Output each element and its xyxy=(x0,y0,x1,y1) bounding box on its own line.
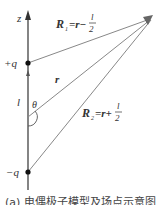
svg-text:l: l xyxy=(117,101,120,111)
vector-r xyxy=(28,20,150,117)
axis-label-z: z xyxy=(16,12,22,24)
svg-text:R: R xyxy=(81,106,90,120)
figure-caption: (a) 电偶极子模型及场点示意图 xyxy=(0,193,161,205)
svg-text:R: R xyxy=(55,17,64,31)
label-positive-charge: +q xyxy=(4,57,17,69)
charge-positive xyxy=(25,60,30,65)
label-r: r xyxy=(55,73,60,85)
svg-text:=r+: =r+ xyxy=(95,107,112,119)
z-axis-arrow-icon xyxy=(25,10,31,20)
charge-negative xyxy=(25,169,30,174)
label-separation: l xyxy=(17,96,20,108)
svg-text:2: 2 xyxy=(115,113,120,123)
svg-text:2: 2 xyxy=(91,115,94,121)
dipole-direction-arrow-icon xyxy=(26,70,30,76)
svg-text:2: 2 xyxy=(89,24,94,34)
dipole-diagram: z +q −q l θ r R 1 =r− l 2 R 2 =r+ l 2 xyxy=(0,0,161,205)
svg-text:l: l xyxy=(91,12,94,22)
label-R2: R 2 =r+ l 2 xyxy=(81,101,122,123)
vector-R2 xyxy=(28,20,151,172)
label-theta: θ xyxy=(32,99,37,110)
svg-text:1: 1 xyxy=(65,26,68,32)
label-negative-charge: −q xyxy=(6,166,19,178)
label-R1: R 1 =r− l 2 xyxy=(55,12,96,34)
svg-text:=r−: =r− xyxy=(69,18,86,30)
field-point-arrowhead-icon xyxy=(143,15,153,25)
